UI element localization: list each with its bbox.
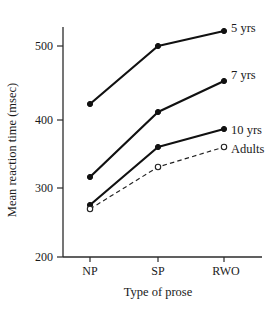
series-adults-point-rwo: [221, 144, 226, 149]
series-7-yrs-point-sp: [155, 109, 160, 114]
series-label-10-yrs: 10 yrs: [231, 123, 262, 137]
series-5-yrs-point-sp: [155, 43, 160, 48]
line-chart-canvas: Mean reaction time (msec) 500 400 300 20…: [0, 0, 277, 312]
series-7-yrs-point-np: [87, 174, 92, 179]
x-tick-label-np: NP: [82, 264, 98, 278]
series-7-yrs-line: [90, 81, 224, 177]
y-tick-label-200: 200: [35, 250, 53, 264]
series-5-yrs-point-rwo: [221, 28, 226, 33]
series-adults-point-np: [87, 206, 92, 211]
y-axis-ticks: 500 400 300 200: [35, 39, 63, 264]
series-adults-point-sp: [155, 164, 160, 169]
y-tick-label-300: 300: [35, 181, 53, 195]
x-tick-label-sp: SP: [151, 264, 165, 278]
series-5-yrs-line: [90, 31, 224, 104]
series-label-adults: Adults: [231, 142, 264, 156]
x-axis-title: Type of prose: [124, 285, 193, 299]
chart-figure: Mean reaction time (msec) 500 400 300 20…: [0, 0, 277, 312]
series-10-yrs-point-sp: [155, 144, 160, 149]
series-label-7-yrs: 7 yrs: [231, 68, 256, 82]
x-tick-label-rwo: RWO: [212, 264, 240, 278]
series-adults: Adults: [87, 142, 264, 212]
series-10-yrs-point-rwo: [221, 126, 226, 131]
series-label-5-yrs: 5 yrs: [231, 21, 256, 35]
series-5-yrs: 5 yrs: [87, 21, 255, 107]
series-7-yrs-point-rwo: [221, 78, 226, 83]
y-axis-title: Mean reaction time (msec): [5, 83, 19, 217]
series-5-yrs-point-np: [87, 101, 92, 106]
x-axis-ticks: NP SP RWO: [82, 257, 240, 278]
y-tick-label-500: 500: [35, 39, 53, 53]
y-tick-label-400: 400: [35, 113, 53, 127]
